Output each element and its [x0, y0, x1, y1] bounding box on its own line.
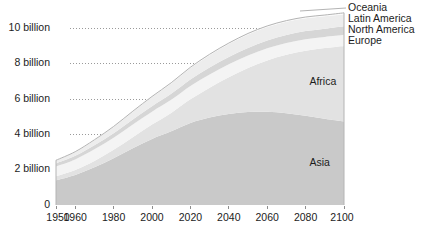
x-tick-label-1960: 1960 [64, 211, 88, 223]
y-tick-label-4: 4 billion [14, 127, 50, 139]
x-axis-tick-labels: 195019601980200020202040206020802100 [46, 211, 354, 223]
y-tick-label-2: 2 billion [14, 162, 50, 174]
y-tick-label-8: 8 billion [14, 56, 50, 68]
population-area-chart: 02 billion4 billion6 billion8 billion10 … [0, 0, 425, 230]
y-tick-label-10: 10 billion [9, 21, 51, 33]
series-label-north-america: North America [348, 23, 415, 35]
x-tick-label-2020: 2020 [179, 211, 203, 223]
y-tick-label-0: 0 [44, 198, 50, 210]
x-tick-label-2100: 2100 [330, 211, 354, 223]
x-tick-label-2000: 2000 [140, 211, 164, 223]
x-axis-ticks [56, 206, 344, 209]
x-tick-label-1980: 1980 [102, 211, 126, 223]
series-label-oceania: Oceania [348, 1, 387, 13]
series-label-latin-america: Latin America [348, 12, 412, 24]
y-tick-label-6: 6 billion [14, 92, 50, 104]
chart-canvas: 02 billion4 billion6 billion8 billion10 … [0, 0, 425, 230]
x-tick-label-2080: 2080 [294, 211, 318, 223]
y-axis-tick-labels: 02 billion4 billion6 billion8 billion10 … [9, 21, 51, 210]
series-label-europe: Europe [348, 34, 382, 46]
series-label-africa: Africa [309, 75, 336, 87]
series-label-asia: Asia [309, 156, 330, 168]
x-tick-label-2040: 2040 [217, 211, 241, 223]
x-tick-label-2060: 2060 [256, 211, 280, 223]
